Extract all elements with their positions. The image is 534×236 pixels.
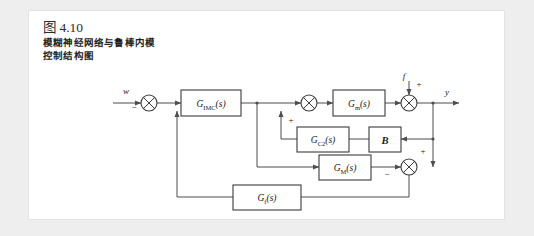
- summing-junction-4[interactable]: [401, 159, 417, 175]
- block-b-matrix[interactable]: B: [369, 127, 401, 152]
- junction-dot-gimc-output: [255, 101, 258, 104]
- block-gf[interactable]: Gf(s): [233, 185, 301, 210]
- label-sign-sum3-disturbance: +: [416, 79, 421, 89]
- block-gm-model[interactable]: GM(s): [319, 155, 371, 180]
- label-sign-sum4-left: −: [384, 169, 389, 179]
- block-gm-plant-label: Gm(s): [348, 99, 370, 111]
- label-signal-w: w: [123, 86, 129, 96]
- label-signal-y: y: [444, 87, 449, 97]
- label-sign-sum4-top: +: [420, 146, 425, 156]
- block-gc2[interactable]: GC2(s): [297, 127, 349, 152]
- summing-junction-1[interactable]: [141, 95, 157, 111]
- label-sign-sum1-feedback: −: [131, 102, 136, 112]
- block-gimc[interactable]: GIMC(s): [181, 90, 241, 116]
- summing-junction-2[interactable]: [301, 95, 317, 111]
- junction-dot-b-feed: [431, 137, 434, 140]
- label-sign-sum2-lower: +: [288, 115, 293, 125]
- summing-junction-3[interactable]: [401, 95, 417, 111]
- block-b-matrix-label: B: [380, 135, 388, 146]
- block-diagram: GIMC(s) Gm(s) GC2(s) B GM(s): [29, 11, 505, 220]
- diagram-canvas: GIMC(s) Gm(s) GC2(s) B GM(s): [29, 11, 505, 220]
- block-gm-plant[interactable]: Gm(s): [333, 90, 385, 116]
- figure-card: 图 4.10 模糊神经网络与鲁棒内模 控制结构图: [28, 10, 505, 220]
- block-gf-label: Gf(s): [257, 193, 276, 205]
- label-signal-f: f: [403, 71, 407, 81]
